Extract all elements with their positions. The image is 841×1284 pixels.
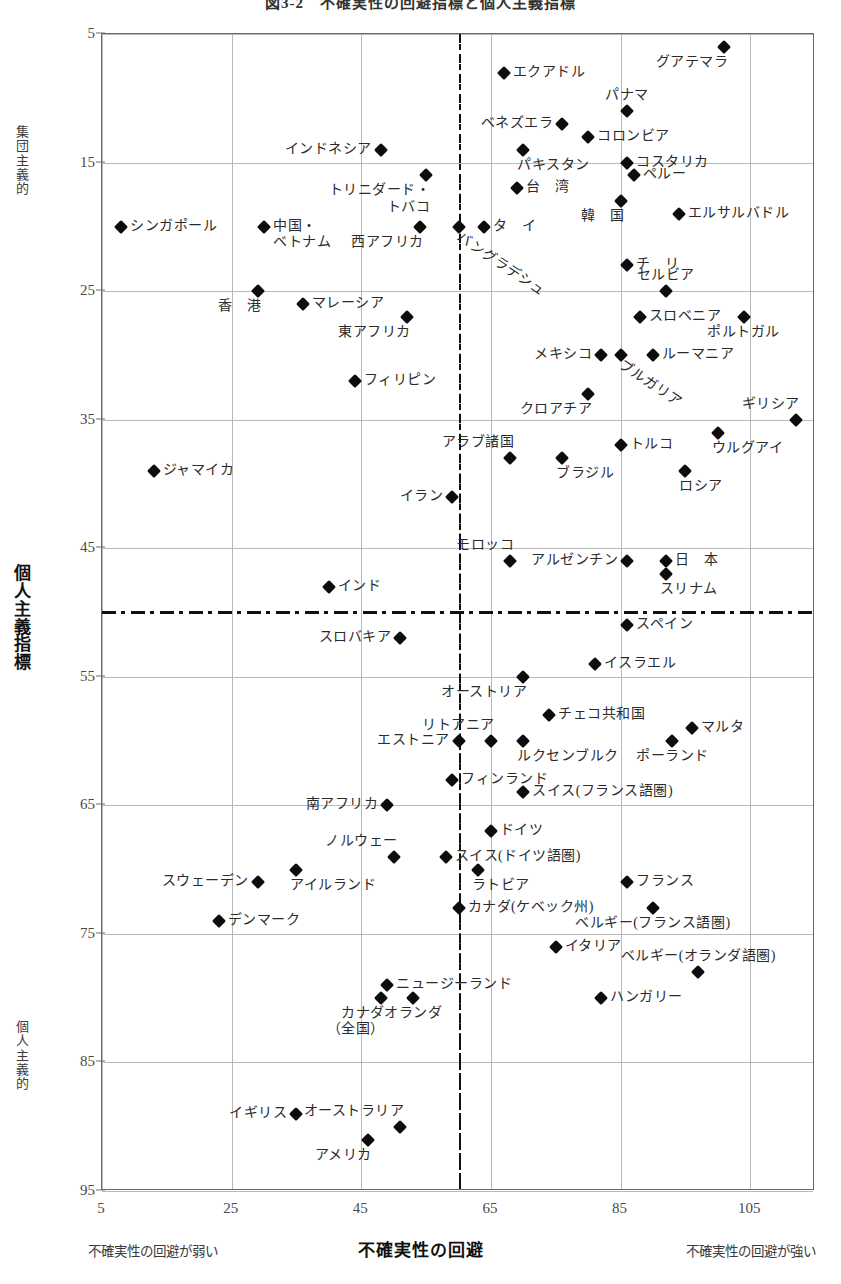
data-point-label: スウェーデン bbox=[162, 873, 249, 889]
diamond-marker bbox=[581, 387, 595, 401]
data-point-label: スイス(ドイツ語圏) bbox=[455, 848, 581, 864]
data-point-label: 中国・ベトナム bbox=[273, 218, 331, 250]
y-tick-mark bbox=[96, 33, 105, 34]
gridline-horizontal bbox=[102, 34, 813, 35]
diamond-marker bbox=[250, 284, 264, 298]
diamond-marker bbox=[451, 901, 465, 915]
diamond-marker bbox=[581, 130, 595, 144]
data-point-label: ノルウェー bbox=[325, 833, 398, 849]
data-point-label: バングラデシュ bbox=[454, 229, 548, 300]
data-point-label: エルサルバドル bbox=[688, 205, 790, 221]
data-point-label: ギリシア bbox=[742, 396, 800, 412]
diamond-marker bbox=[438, 850, 452, 864]
diamond-marker bbox=[374, 991, 388, 1005]
diamond-marker bbox=[542, 708, 556, 722]
data-point-label: オーストリア bbox=[441, 684, 527, 700]
data-point-label: エストニア bbox=[377, 732, 450, 748]
y-tick-label: 85 bbox=[61, 1053, 95, 1070]
y-axis-ticks: 5152535455565758595 bbox=[55, 33, 95, 1190]
y-tick-mark bbox=[96, 161, 105, 162]
diamond-marker bbox=[322, 580, 336, 594]
diamond-marker bbox=[717, 40, 731, 54]
diamond-marker bbox=[400, 310, 414, 324]
diamond-marker bbox=[413, 220, 427, 234]
data-point-label: エクアドル bbox=[513, 64, 586, 80]
data-point-label: アイルランド bbox=[290, 877, 376, 893]
data-point-label: リトアニア bbox=[422, 717, 495, 733]
diamond-marker bbox=[633, 310, 647, 324]
data-point-label: ルーマニア bbox=[662, 346, 735, 362]
y-tick-mark bbox=[96, 804, 105, 805]
data-point-label: メキシコ bbox=[534, 346, 592, 362]
data-point-label: スイス(フランス語圏) bbox=[532, 783, 673, 799]
y-tick-label: 45 bbox=[61, 539, 95, 556]
data-point-label: パナマ bbox=[605, 87, 649, 103]
diamond-marker bbox=[296, 297, 310, 311]
data-point-label: マルタ bbox=[701, 719, 745, 735]
diamond-marker bbox=[289, 1107, 303, 1121]
diamond-marker bbox=[613, 438, 627, 452]
y-tick-mark bbox=[96, 1190, 105, 1191]
diamond-marker bbox=[510, 181, 524, 195]
diamond-marker bbox=[620, 104, 634, 118]
y-tick-mark bbox=[96, 675, 105, 676]
diamond-marker bbox=[387, 850, 401, 864]
y-axis-pole-high-label: 個人主義的 bbox=[12, 1020, 32, 1091]
data-point-label: スロバキア bbox=[319, 629, 392, 645]
diamond-marker bbox=[348, 374, 362, 388]
diamond-marker bbox=[393, 1120, 407, 1134]
diamond-marker bbox=[484, 824, 498, 838]
diamond-marker bbox=[361, 1132, 375, 1146]
data-point-label: グアテマラ bbox=[656, 54, 729, 70]
data-point-label: シンガポール bbox=[130, 218, 217, 234]
data-point-label: ベルギー(フランス語圏) bbox=[575, 915, 730, 931]
diamond-marker bbox=[659, 284, 673, 298]
diamond-marker bbox=[672, 207, 686, 221]
gridline-horizontal bbox=[102, 934, 813, 935]
data-point-label: カナダ(ケベック州) bbox=[468, 899, 594, 915]
diamond-marker bbox=[737, 310, 751, 324]
data-point-label: ルクセンブルク bbox=[517, 748, 619, 764]
diamond-marker bbox=[451, 734, 465, 748]
diamond-marker bbox=[659, 567, 673, 581]
data-point-label: ジャマイカ bbox=[163, 462, 235, 478]
y-tick-label: 95 bbox=[61, 1182, 95, 1199]
data-point-label: オランダ bbox=[384, 1005, 442, 1021]
y-tick-label: 75 bbox=[61, 924, 95, 941]
diamond-marker bbox=[620, 258, 634, 272]
x-tick-label: 25 bbox=[223, 1200, 238, 1217]
data-point-label: トリニダード・トバコ bbox=[329, 182, 431, 214]
x-axis-pole-high-label: 不確実性の回避が強い bbox=[686, 1240, 816, 1260]
data-point-label: イギリス bbox=[229, 1105, 287, 1121]
data-point-label: ドイツ bbox=[500, 822, 544, 838]
diamond-marker bbox=[212, 914, 226, 928]
data-point-label: ポルトガル bbox=[707, 324, 780, 340]
diamond-marker bbox=[445, 773, 459, 787]
data-point-label: ウルグアイ bbox=[712, 440, 784, 456]
diamond-marker bbox=[477, 220, 491, 234]
diamond-marker bbox=[588, 657, 602, 671]
diamond-marker bbox=[257, 220, 271, 234]
diamond-marker bbox=[419, 168, 433, 182]
diamond-marker bbox=[516, 734, 530, 748]
diamond-marker bbox=[549, 940, 563, 954]
diamond-marker bbox=[516, 670, 530, 684]
y-axis-title: 個人主義指標 bbox=[12, 565, 34, 672]
data-point-label: イタリア bbox=[565, 938, 622, 954]
diamond-marker bbox=[484, 734, 498, 748]
diamond-marker bbox=[406, 991, 420, 1005]
data-point-label: オーストラリア bbox=[304, 1103, 405, 1119]
gridline-horizontal bbox=[102, 805, 813, 806]
data-point-label: タ イ bbox=[493, 218, 537, 234]
data-point-label: ニュージーランド bbox=[396, 976, 512, 992]
diamond-marker bbox=[471, 863, 485, 877]
y-axis-pole-low-label: 集団主義的 bbox=[12, 125, 32, 196]
diamond-marker bbox=[613, 194, 627, 208]
data-point-label: イスラエル bbox=[604, 655, 677, 671]
data-point-label: マレーシア bbox=[312, 295, 385, 311]
diamond-marker bbox=[147, 464, 161, 478]
diamond-marker bbox=[665, 734, 679, 748]
diamond-marker bbox=[555, 117, 569, 131]
data-point-label: ラトビア bbox=[472, 877, 530, 893]
gridline-horizontal bbox=[102, 420, 813, 421]
